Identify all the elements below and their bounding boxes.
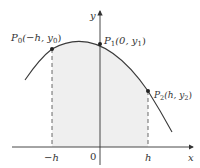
point-p2 [146, 89, 150, 93]
y-axis-label: y [89, 10, 96, 21]
label-p2: P2(h, y2) [153, 90, 192, 102]
point-p0 [50, 47, 54, 51]
label-p0: P0(−h, y0) [10, 32, 61, 45]
label-p1: P1(0, y1) [103, 35, 146, 48]
tick-label-h: h [145, 152, 151, 163]
tick-label-neg-h: −h [44, 152, 59, 163]
parabola-diagram: P0(−h, y0) P1(0, y1) P2(h, y2) y x −h 0 … [0, 0, 200, 168]
point-p1 [98, 42, 102, 46]
x-axis-label: x [188, 152, 194, 163]
tick-label-origin: 0 [90, 151, 96, 162]
